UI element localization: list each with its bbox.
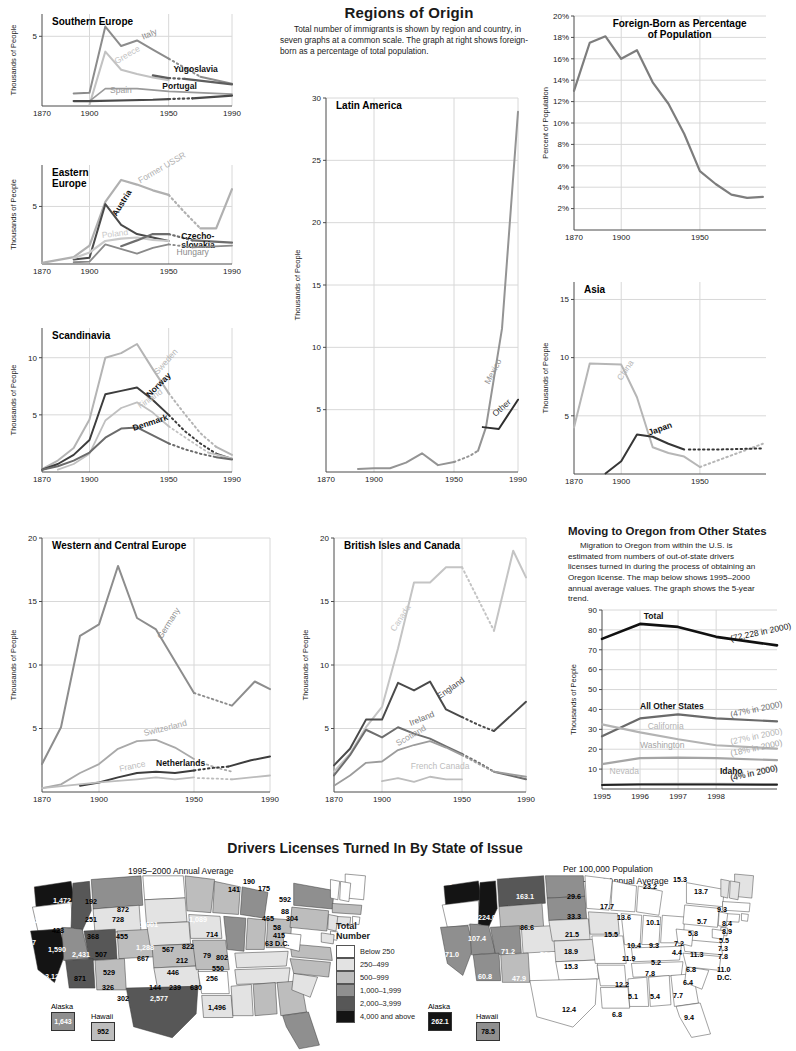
map-value-ks: 529 <box>103 968 115 977</box>
svg-text:8%: 8% <box>557 140 569 149</box>
chart-eastern-europe: 51870190019501990Thousands of PeopleEast… <box>8 155 238 280</box>
svg-text:1996: 1996 <box>631 792 649 801</box>
svg-text:Foreign-Born as Percentage: Foreign-Born as Percentage <box>613 18 747 29</box>
svg-text:Europe: Europe <box>52 178 87 189</box>
map-value-ne: 21.5 <box>565 930 579 939</box>
svg-text:1950: 1950 <box>185 795 203 804</box>
inset-value-alaska: 1,643 <box>51 1012 75 1031</box>
svg-text:1950: 1950 <box>445 475 463 484</box>
map-value-sc: 6.4 <box>683 978 693 987</box>
svg-text:70: 70 <box>588 646 597 655</box>
svg-text:1870: 1870 <box>33 267 51 276</box>
inset-value-hawaii: 952 <box>91 1022 115 1041</box>
map-value-nc: 550 <box>212 964 224 973</box>
svg-text:10: 10 <box>28 354 37 363</box>
svg-text:15: 15 <box>320 597 329 606</box>
svg-text:1998: 1998 <box>707 792 725 801</box>
svg-text:1950: 1950 <box>453 795 471 804</box>
svg-text:2%: 2% <box>557 204 569 213</box>
svg-text:12%: 12% <box>553 97 569 106</box>
svg-text:1950: 1950 <box>160 475 178 484</box>
chart-western-central-europe: 51015201870190019501990Thousands of Peop… <box>8 528 276 808</box>
map-value-ar: 144 <box>149 983 161 992</box>
svg-text:1870: 1870 <box>33 795 51 804</box>
svg-text:10: 10 <box>320 661 329 670</box>
svg-text:40: 40 <box>588 705 597 714</box>
legend-label: 4,000 and above <box>360 1012 415 1021</box>
map-value-mi: 1,001 <box>140 920 158 929</box>
map-value-in: 567 <box>162 945 174 954</box>
map-value-nh: 15.3 <box>673 875 687 884</box>
map-value-nd: 29.6 <box>567 892 581 901</box>
svg-text:Hungary: Hungary <box>177 247 210 257</box>
page-title: Regions of Origin <box>278 4 540 21</box>
map-value-ms: 239 <box>169 983 181 992</box>
map-state-ri <box>741 914 748 922</box>
inset-value-alaska: 262.1 <box>428 1012 452 1031</box>
svg-text:Western and Central Europe: Western and Central Europe <box>52 540 187 551</box>
map-value-oh: 7.2 <box>674 939 684 948</box>
svg-text:Yugoslavia: Yugoslavia <box>173 64 218 74</box>
svg-text:Thousands of People: Thousands of People <box>541 343 550 414</box>
map-value-ma: 9.3 <box>717 905 727 914</box>
svg-text:6%: 6% <box>557 162 569 171</box>
svg-text:Thousands of People: Thousands of People <box>301 630 310 701</box>
map-value-mo: 667 <box>137 954 149 963</box>
map-value-ca: 71.0 <box>445 950 459 959</box>
svg-text:1950: 1950 <box>691 477 709 486</box>
inset-label-hawaii: Hawaii <box>467 1012 507 1021</box>
map-value-ny: 1,089 <box>189 915 207 924</box>
map-value-co: 18.9 <box>564 947 578 956</box>
map-state-vt <box>721 879 730 898</box>
legend-row: 250–499 <box>336 958 389 971</box>
map-state-nd <box>143 876 185 900</box>
map-value-ok: 12.2 <box>615 980 629 989</box>
oregon-section-title: Moving to Oregon from Other States <box>568 525 796 537</box>
map-value-tx: 2,577 <box>150 994 168 1003</box>
svg-text:1870: 1870 <box>565 233 583 242</box>
maps-section-title: Drivers Licenses Turned In By State of I… <box>0 840 750 856</box>
map-state-ms <box>231 984 253 1015</box>
map-value-or-area: 2,147 <box>18 938 36 947</box>
svg-text:Thousands of People: Thousands of People <box>9 25 18 96</box>
svg-text:Total: Total <box>644 611 664 621</box>
svg-text:25: 25 <box>312 156 321 165</box>
map-value-tn: 7.8 <box>645 969 655 978</box>
map-value-il: 1,288 <box>136 943 154 952</box>
map-state-ky <box>235 951 288 968</box>
map-value-nc: 6.8 <box>686 965 696 974</box>
svg-text:90: 90 <box>588 606 597 615</box>
svg-text:5: 5 <box>325 724 330 733</box>
map-value-me: 13.7 <box>694 887 708 896</box>
chart-oregon-migration: 1020304050607080901995199619971998Thousa… <box>568 600 783 805</box>
svg-text:Japan: Japan <box>647 420 674 438</box>
legend-swatch <box>336 945 355 958</box>
map-state-ma <box>332 903 361 914</box>
map-state-mt <box>91 876 143 909</box>
legend-swatch <box>336 958 355 971</box>
svg-text:Switzerland: Switzerland <box>143 718 188 738</box>
map-value-ct: 304 <box>286 914 298 923</box>
page-description: Total number of immigrants is shown by r… <box>280 24 542 57</box>
svg-text:Washington: Washington <box>640 740 685 750</box>
map-value-nj: 465 <box>262 914 274 923</box>
map-value-or-area: 107.4 <box>468 934 486 943</box>
chart-british-isles-canada: 51015201870190019501990Thousands of Peop… <box>300 528 532 808</box>
svg-text:(72,228 in 2000): (72,228 in 2000) <box>729 621 792 644</box>
svg-text:1950: 1950 <box>160 267 178 276</box>
map-value-wa: 242.3 <box>434 878 452 887</box>
map-value-ne: 368 <box>87 932 99 941</box>
map-value-fl: 1,496 <box>208 1003 226 1012</box>
map-value-al-ga: 630 <box>190 983 202 992</box>
svg-text:30: 30 <box>312 94 321 103</box>
map-value-wv: 4.4 <box>672 948 682 957</box>
svg-text:1900: 1900 <box>81 267 99 276</box>
map-value-vt: 141 <box>228 885 240 894</box>
svg-text:Greece: Greece <box>112 43 141 66</box>
legend-label: 250–499 <box>360 960 389 969</box>
svg-text:All Other States: All Other States <box>640 701 704 711</box>
map-value-mi: 10.1 <box>646 918 660 927</box>
svg-text:14%: 14% <box>553 76 569 85</box>
svg-text:1900: 1900 <box>612 233 630 242</box>
map-value-sd: 251 <box>85 915 97 924</box>
